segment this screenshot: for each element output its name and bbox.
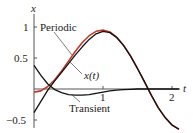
y-tick-label-1: 1 (23, 21, 29, 33)
xt-curve (34, 31, 179, 129)
y-tick-label-m05: −0.5 (6, 114, 26, 126)
transient-leader (72, 95, 80, 102)
y-axis-label: x (30, 2, 36, 14)
y-tick-label-05: 0.5 (14, 52, 28, 64)
xt-label: x(t) (83, 69, 100, 82)
x-tick-label-2: 2 (169, 91, 175, 103)
transient-label: Transient (69, 102, 110, 114)
xt-leader (70, 62, 82, 74)
curves (34, 30, 179, 129)
periodic-leader (54, 32, 72, 55)
chart: x t 1 0.5 −0.5 1 2 Periodic x(t) Transie… (0, 0, 193, 133)
x-axis-label: t (183, 82, 187, 94)
periodic-label: Periodic (40, 21, 77, 33)
